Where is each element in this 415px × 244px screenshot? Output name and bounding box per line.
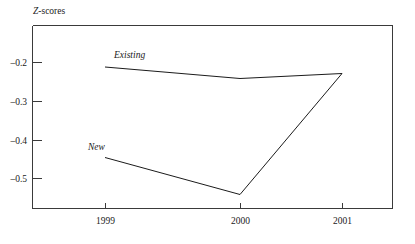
- y-tick-label-2: –0.4: [9, 136, 27, 146]
- line-chart: Z-scores –0.2 –0.3 –0.4 –0.5 1999 2000 2…: [0, 0, 415, 244]
- x-tick-label-1: 2000: [231, 216, 250, 226]
- y-axis-title-rest: -scores: [38, 6, 65, 16]
- y-tick-label-1: –0.3: [9, 97, 27, 107]
- x-tick-label-2: 2001: [333, 216, 352, 226]
- series-line-new: [105, 74, 342, 195]
- y-axis-title: Z-scores: [33, 6, 66, 16]
- y-tick-label-0: –0.2: [9, 58, 27, 68]
- series-label-new: New: [87, 142, 106, 152]
- y-tick-label-3: –0.5: [9, 174, 27, 184]
- series-label-existing: Existing: [113, 50, 145, 60]
- plot-frame: [33, 26, 393, 209]
- series-line-existing: [105, 67, 342, 79]
- x-tick-label-0: 1999: [96, 216, 115, 226]
- chart-screenshot: Z-scores –0.2 –0.3 –0.4 –0.5 1999 2000 2…: [0, 0, 415, 244]
